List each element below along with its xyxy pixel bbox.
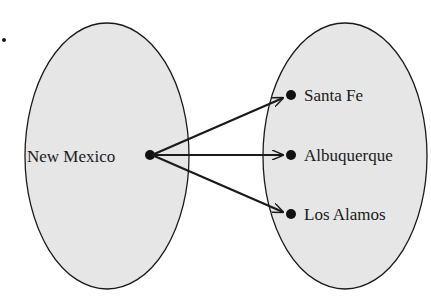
codomain-element-dot — [286, 90, 296, 100]
codomain-element-label: Los Alamos — [304, 205, 386, 224]
stray-dot — [2, 38, 6, 42]
codomain-element-dot — [286, 150, 296, 160]
mapping-diagram: New Mexico Santa Fe Albuquerque Los Alam… — [0, 0, 431, 296]
codomain-set: Santa Fe Albuquerque Los Alamos — [263, 23, 427, 289]
codomain-element-label: Albuquerque — [304, 146, 393, 165]
domain-element-label: New Mexico — [27, 147, 115, 166]
codomain-element-label: Santa Fe — [304, 86, 363, 105]
codomain-element-dot — [286, 209, 296, 219]
